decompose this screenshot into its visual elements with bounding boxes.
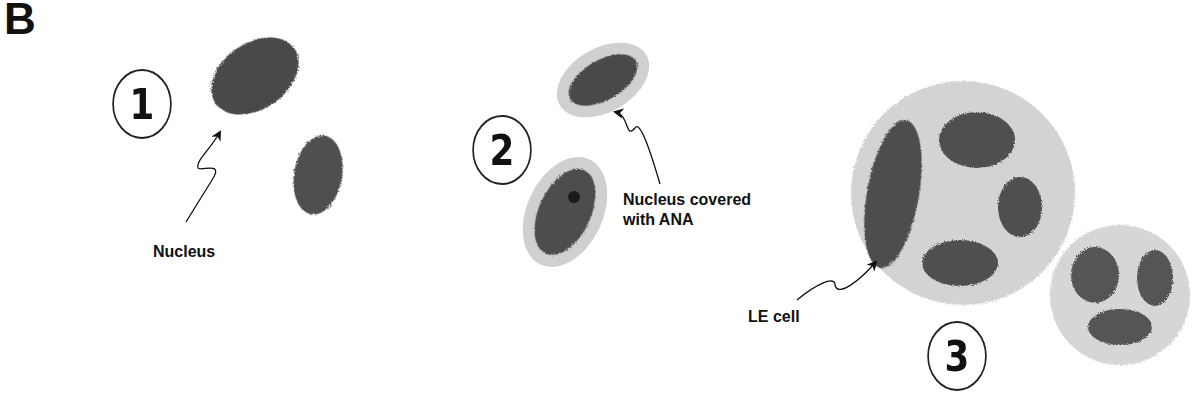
arrow-nucleus [186, 132, 220, 222]
nucleus-1b [287, 131, 348, 218]
arrow-le-cell [797, 262, 876, 300]
label-le-cell: LE cell [748, 307, 800, 327]
label-ana-line1: Nucleus covered [623, 190, 751, 210]
stage-3-marker: 3 [927, 321, 987, 391]
stage-1-nuclei [186, 21, 349, 222]
label-ana-line2: with ANA [623, 210, 694, 230]
label-nucleus: Nucleus [153, 242, 215, 262]
stage-3-le-cells [797, 81, 1190, 365]
stage-2-marker: 2 [472, 115, 532, 185]
nucleus-1a [197, 21, 313, 130]
stage-1-marker: 1 [112, 69, 172, 139]
arrow-ana [615, 112, 660, 184]
diagram-illustration [0, 0, 1200, 399]
